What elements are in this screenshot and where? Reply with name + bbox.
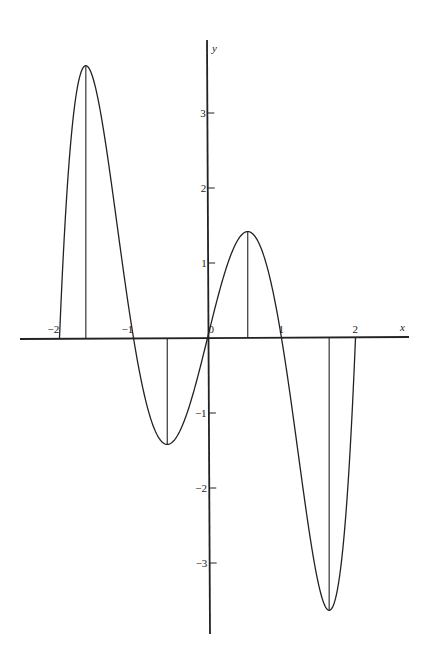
y-axis-label: y <box>211 42 217 54</box>
x-axis <box>20 337 409 339</box>
y-tick-label: −3 <box>196 557 208 569</box>
x-tick-label: −2 <box>48 323 60 335</box>
y-tick-label: −2 <box>195 482 207 494</box>
axes: x y <box>20 40 409 634</box>
function-plot: x y −2−1012−3−2−1123 <box>0 0 429 665</box>
y-tick-label: −1 <box>195 407 207 419</box>
y-tick-label: 2 <box>201 182 207 194</box>
x-axis-label: x <box>399 321 405 333</box>
x-tick-label: 2 <box>353 323 359 335</box>
y-tick-label: 1 <box>201 257 207 269</box>
y-tick-label: 3 <box>200 107 206 119</box>
